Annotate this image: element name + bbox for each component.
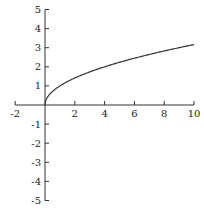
x-tick-label: -2 [10,108,20,119]
x-tick-label: 10 [188,108,201,119]
x-tick-label: 4 [101,108,107,119]
x-tick-label: 8 [161,108,167,119]
y-tick-label: -2 [31,138,41,149]
y-tick-label: 5 [35,4,41,15]
y-tick-label: -1 [31,119,41,130]
y-tick-label: 1 [35,80,41,91]
y-tick-label: 3 [35,42,41,53]
y-tick-label: -4 [31,176,41,187]
x-axis [15,101,194,105]
y-tick-label: -5 [31,195,41,206]
y-tick-label: 4 [35,23,41,34]
y-tick-label: 2 [35,61,41,72]
chart: -2246810 -5-4-3-2-112345 [0,0,204,212]
x-tick-label: 2 [72,108,78,119]
sqrt-curve [45,45,194,105]
y-tick-label: -3 [31,157,41,168]
x-tick-label: 6 [131,108,137,119]
x-tick-labels: -2246810 [10,108,200,119]
